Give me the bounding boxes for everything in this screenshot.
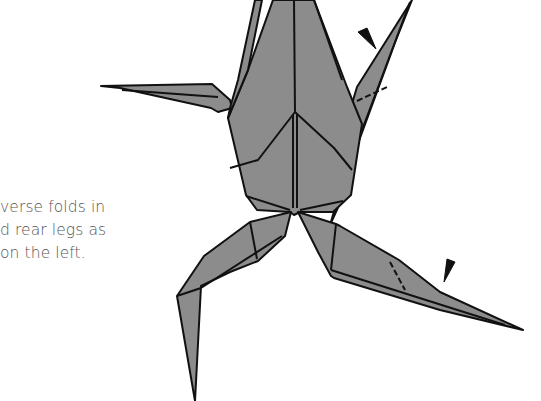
fold-arrow-icon	[358, 28, 376, 49]
left-rear-leg	[177, 212, 291, 401]
origami-frog-diagram	[0, 0, 541, 401]
right-rear-leg	[298, 212, 523, 330]
left-front-leg	[101, 84, 232, 112]
fold-arrow-icon	[444, 259, 455, 282]
frog-body	[228, 0, 362, 215]
